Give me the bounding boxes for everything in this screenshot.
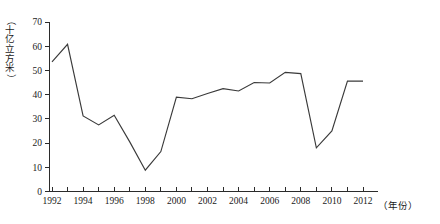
y-axis-tick-label: 60 [33, 42, 43, 52]
chart-figure: （ 十 亿 立 方 米 ） 010203040506070 1992199419… [0, 0, 440, 224]
x-axis-tick-label: 2002 [198, 196, 217, 206]
y-axis-tick-label: 20 [33, 138, 43, 148]
x-axis-tick-label: 2008 [291, 196, 310, 206]
x-axis-tick-label: 1996 [105, 196, 124, 206]
y-axis-tick-label: 0 [37, 187, 42, 197]
x-axis-tick-label: 1998 [136, 196, 155, 206]
x-axis-tick-label: 2006 [260, 196, 279, 206]
x-axis-tick-labels: 1992199419961998200020022004200620082010… [43, 196, 373, 206]
data-series-line [52, 44, 363, 170]
x-axis-unit-label: （年份） [378, 198, 418, 212]
chart-axes [50, 22, 379, 192]
y-axis-ticks [45, 22, 50, 192]
x-axis-tick-label: 2000 [167, 196, 186, 206]
y-axis-tick-label: 50 [33, 66, 43, 76]
y-axis-tick-labels: 010203040506070 [33, 17, 43, 197]
y-axis-tick-label: 40 [33, 90, 43, 100]
line-chart-plot: 010203040506070 199219941996199820002002… [0, 0, 440, 224]
y-axis-tick-label: 30 [33, 114, 43, 124]
x-axis-tick-label: 2012 [354, 196, 373, 206]
y-axis-tick-label: 10 [33, 163, 43, 173]
y-axis-tick-label: 70 [33, 17, 43, 27]
x-axis-tick-label: 1994 [74, 196, 93, 206]
x-axis-tick-label: 1992 [43, 196, 62, 206]
x-axis-ticks [52, 187, 363, 192]
x-axis-tick-label: 2004 [229, 196, 248, 206]
x-axis-tick-label: 2010 [322, 196, 341, 206]
